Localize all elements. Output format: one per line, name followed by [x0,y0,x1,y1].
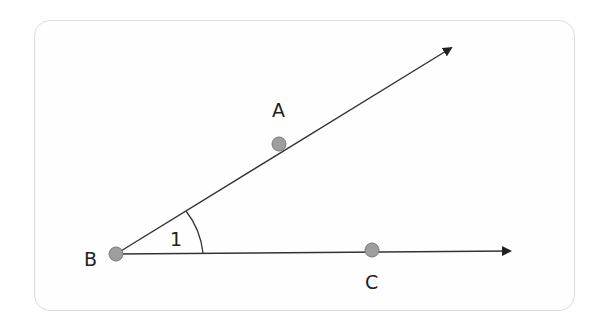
point-a [272,137,286,151]
angle-label: 1 [170,228,182,250]
angle-arc [186,211,203,253]
angle-diagram: A B C 1 [0,0,603,328]
ray-bc [116,251,510,254]
point-b [109,247,123,261]
label-b: B [84,248,97,270]
label-c: C [365,271,378,293]
ray-ba [116,48,451,254]
point-c [365,243,379,257]
label-a: A [272,99,285,121]
